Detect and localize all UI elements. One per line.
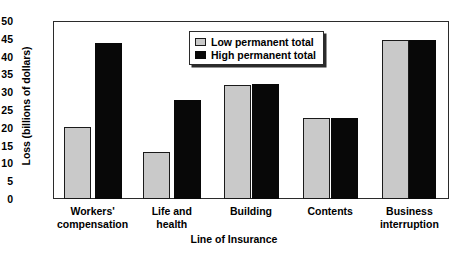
legend-swatch-low-icon [195,38,206,46]
y-tick-label: 50 [0,15,13,27]
y-axis-title: Loss (billions of dollars) [20,16,32,196]
x-tick-label: Business interruption [360,205,459,230]
y-tick-label: 5 [0,175,13,187]
y-tick-label: 15 [0,140,13,152]
bar [382,40,409,199]
bar-group [64,21,122,199]
y-tick-label: 35 [0,68,13,80]
y-tick-label: 25 [0,104,13,116]
bar [174,100,201,199]
legend-item: Low permanent total [195,35,316,48]
bar [143,152,170,199]
y-tick-label: 45 [0,33,13,45]
x-axis-title: Line of Insurance [0,233,468,245]
bar [409,40,436,199]
y-tick-label: 30 [0,86,13,98]
legend-label: High permanent total [211,49,316,61]
bar [252,84,279,199]
chart-legend: Low permanent total High permanent total [189,31,324,65]
y-tick-label: 40 [0,51,13,63]
bar [64,127,91,199]
legend-item: High permanent total [195,48,316,61]
legend-swatch-high-icon [195,51,206,59]
legend-label: Low permanent total [211,36,314,48]
y-tick-label: 20 [0,122,13,134]
bar [303,118,330,199]
bar [95,43,122,199]
y-tick-label: 0 [0,193,13,205]
bar [331,118,358,199]
bar-group [382,21,436,199]
bar-chart: Loss (billions of dollars) 0510152025303… [0,0,468,257]
y-tick-label: 10 [0,157,13,169]
bar [224,85,251,199]
